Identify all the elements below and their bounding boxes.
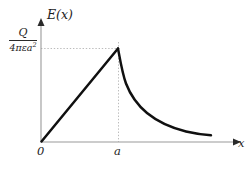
origin-tick-label: 0: [37, 146, 44, 158]
y-tick-label-peak-value: Q 4πεa2: [5, 27, 41, 55]
fraction-denominator-exponent: 2: [32, 41, 36, 49]
y-axis-arrowhead: [38, 18, 45, 26]
field-plot-figure: E(x) x 0 a Q 4πεa2: [0, 0, 251, 170]
y-axis-label: E(x): [47, 9, 73, 22]
fraction-denominator-base: 4πεa: [9, 42, 32, 53]
fraction-denominator: 4πεa2: [8, 41, 37, 53]
curve-decay-segment: [118, 49, 211, 136]
x-tick-label-a: a: [114, 146, 121, 158]
x-axis-label: x: [238, 138, 245, 150]
curve-linear-segment: [42, 49, 119, 142]
fraction-numerator: Q: [8, 27, 37, 40]
peak-value-fraction: Q 4πεa2: [8, 27, 37, 53]
